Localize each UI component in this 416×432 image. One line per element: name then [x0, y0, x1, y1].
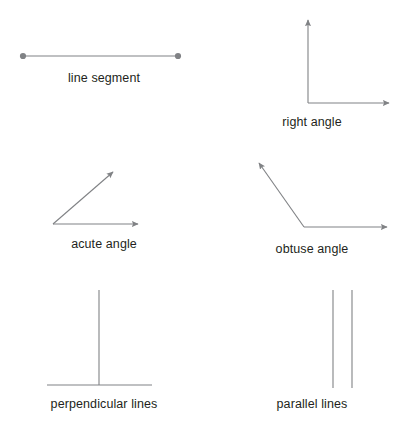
- figure-drawing-layer: [0, 0, 416, 432]
- figure-parallel-lines: [333, 290, 352, 388]
- figure-right-angle: [308, 20, 389, 103]
- line-segment-endpoint-left: [20, 53, 26, 59]
- figure-obtuse-angle: [259, 163, 387, 227]
- line-segment-endpoint-right: [175, 53, 181, 59]
- obtuse-angle-upper-ray: [259, 163, 304, 227]
- label-acute-angle: acute angle: [0, 238, 208, 251]
- label-line-segment: line segment: [0, 72, 208, 85]
- label-parallel-lines: parallel lines: [208, 398, 416, 411]
- geometry-terms-diagram: line segment right angle acute angle obt…: [0, 0, 416, 432]
- label-right-angle: right angle: [208, 116, 416, 129]
- label-perpendicular-lines: perpendicular lines: [0, 398, 208, 411]
- figure-line-segment: [20, 53, 181, 59]
- acute-angle-upper-ray: [53, 172, 113, 224]
- figure-acute-angle: [53, 172, 138, 224]
- figure-perpendicular-lines: [47, 290, 152, 385]
- label-obtuse-angle: obtuse angle: [208, 243, 416, 256]
